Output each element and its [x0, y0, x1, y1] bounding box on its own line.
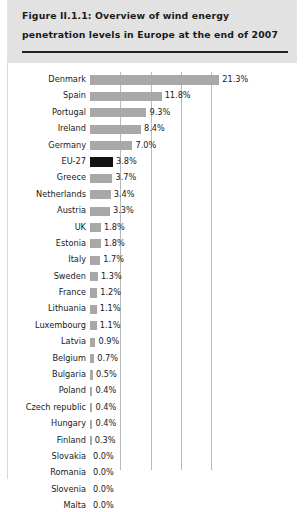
bar-segment [90, 288, 97, 297]
bar-segment [90, 125, 141, 134]
bar-category-label: EU-27 [61, 156, 86, 166]
bar-segment [90, 338, 95, 347]
bar-segment [90, 223, 101, 232]
bar-row: France1.2% [8, 285, 298, 301]
bar-category-label: Finland [57, 435, 86, 445]
bar-row: EU-273.8% [8, 154, 298, 170]
bar-row: Latvia0.9% [8, 334, 298, 350]
bar-row: Ireland8.4% [8, 121, 298, 137]
bar-value-label: 8.4% [144, 123, 165, 133]
bar-segment [90, 190, 111, 199]
bar-row: Netherlands3.4% [8, 187, 298, 203]
bar-value-label: 3.3% [113, 205, 134, 215]
figure-header: Figure II.1.1: Overview of wind energy p… [7, 0, 297, 63]
bar-row: Luxembourg1.1% [8, 318, 298, 334]
bar-value-label: 0.3% [95, 435, 116, 445]
bar-row: Sweden1.3% [8, 269, 298, 285]
bar-value-label: 1.7% [103, 254, 124, 264]
bar-value-label: 3.4% [114, 189, 135, 199]
bar-value-label: 0.7% [97, 353, 118, 363]
bar-category-label: Ireland [58, 123, 86, 133]
bar-category-label: Sweden [54, 271, 86, 281]
bar-row: Austria3.3% [8, 203, 298, 219]
bar-segment [90, 157, 113, 166]
bar-value-label: 1.2% [100, 287, 121, 297]
bar-value-label: 3.8% [116, 156, 137, 166]
bar-category-label: Germany [48, 140, 86, 150]
bar-segment [90, 75, 219, 84]
bar-row: Slovakia0.0% [8, 449, 298, 465]
chart-panel: Denmark21.3%Spain11.8%Portugal9.3%Irelan… [7, 63, 297, 479]
bar-category-label: Slovakia [52, 451, 86, 461]
bar-row: Malta0.0% [8, 498, 298, 512]
bar-category-label: Bulgaria [52, 369, 86, 379]
bar-row: Czech republic0.4% [8, 400, 298, 416]
bar-value-label: 0.4% [95, 385, 116, 395]
bar-category-label: France [59, 287, 86, 297]
bar-value-label: 7.0% [135, 140, 156, 150]
bar-row: Bulgaria0.5% [8, 367, 298, 383]
bar-chart: Denmark21.3%Spain11.8%Portugal9.3%Irelan… [8, 63, 298, 479]
bar-category-label: Austria [57, 205, 86, 215]
bar-row: Italy1.7% [8, 252, 298, 268]
bar-segment [90, 370, 93, 379]
bar-category-label: Italy [68, 254, 86, 264]
bar-category-label: Malta [63, 500, 86, 510]
bar-category-label: UK [75, 222, 86, 232]
bar-segment [90, 305, 97, 314]
bar-category-label: Latvia [61, 336, 86, 346]
bar-segment [90, 207, 110, 216]
bar-value-label: 1.8% [104, 238, 125, 248]
bar-segment [90, 92, 162, 101]
bar-segment [90, 141, 132, 150]
bar-segment [90, 174, 112, 183]
bar-value-label: 1.1% [100, 303, 121, 313]
bar-row: Germany7.0% [8, 138, 298, 154]
bar-category-label: Netherlands [36, 189, 86, 199]
bar-category-label: Portugal [52, 107, 86, 117]
bar-segment [90, 321, 97, 330]
figure-title: Figure II.1.1: Overview of wind energy p… [22, 6, 284, 44]
bar-category-label: Spain [63, 90, 86, 100]
bar-row: Greece3.7% [8, 170, 298, 186]
bar-category-label: Romania [50, 467, 86, 477]
bar-value-label: 0.0% [93, 451, 114, 461]
bar-value-label: 0.0% [93, 484, 114, 494]
bar-category-label: Belgium [52, 353, 86, 363]
bar-row: Spain11.8% [8, 88, 298, 104]
bar-segment [90, 354, 94, 363]
bar-row: Belgium0.7% [8, 351, 298, 367]
bar-value-label: 0.0% [93, 500, 114, 510]
bar-row: Romania0.0% [8, 465, 298, 481]
bar-segment [90, 272, 98, 281]
bar-row: Portugal9.3% [8, 105, 298, 121]
title-underline [22, 51, 288, 53]
bar-segment [90, 108, 146, 117]
bar-value-label: 0.5% [96, 369, 117, 379]
bar-segment [90, 403, 92, 412]
bar-segment [90, 239, 101, 248]
bar-category-label: Luxembourg [35, 320, 86, 330]
bar-category-label: Hungary [51, 418, 86, 428]
bar-segment [90, 387, 92, 396]
bar-row-group: Denmark21.3%Spain11.8%Portugal9.3%Irelan… [8, 72, 298, 512]
bar-row: UK1.8% [8, 220, 298, 236]
bar-row: Denmark21.3% [8, 72, 298, 88]
bar-value-label: 1.8% [104, 222, 125, 232]
bar-segment [90, 420, 92, 429]
bar-value-label: 3.7% [115, 172, 136, 182]
bar-category-label: Czech republic [26, 402, 86, 412]
bar-category-label: Lithuania [48, 303, 86, 313]
bar-category-label: Greece [57, 172, 86, 182]
bar-value-label: 9.3% [149, 107, 170, 117]
bar-row: Finland0.3% [8, 433, 298, 449]
bar-row: Hungary0.4% [8, 416, 298, 432]
bar-value-label: 0.4% [95, 402, 116, 412]
bar-row: Poland0.4% [8, 383, 298, 399]
bar-value-label: 0.4% [95, 418, 116, 428]
bar-category-label: Slovenia [51, 484, 86, 494]
bar-segment [90, 436, 92, 445]
bar-row: Slovenia0.0% [8, 482, 298, 498]
bar-value-label: 0.0% [93, 467, 114, 477]
